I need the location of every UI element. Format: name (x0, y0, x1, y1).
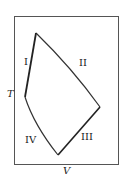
region-label-IV: IV (25, 134, 37, 145)
curve-II (36, 33, 100, 107)
curve-III (58, 107, 100, 155)
tv-diagram: I II III IV T V (0, 0, 125, 181)
x-axis-label: V (63, 165, 72, 176)
curve-IV (25, 97, 58, 155)
region-label-III: III (81, 131, 93, 142)
y-axis-label: T (7, 88, 15, 99)
region-label-II: II (79, 57, 87, 68)
region-label-I: I (24, 56, 28, 67)
